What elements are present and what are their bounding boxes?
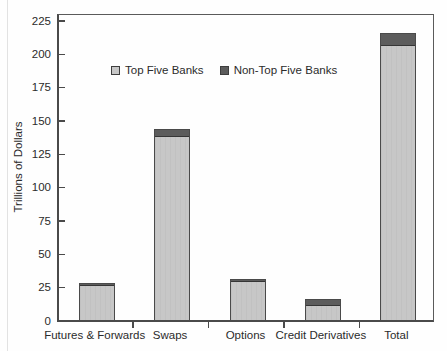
x-axis-label: Total [384, 329, 408, 341]
y-axis-tick-label: 75 [13, 214, 51, 228]
y-axis-tick-label: 50 [13, 247, 51, 261]
y-axis-tick [59, 254, 65, 256]
y-axis-tick [59, 120, 65, 122]
legend-swatch-non-top-five-icon [220, 66, 229, 75]
x-axis-tick [283, 322, 285, 328]
bar-credit-derivatives [305, 299, 341, 320]
y-axis-tick [59, 20, 65, 22]
legend-swatch-top-five-icon [111, 66, 120, 75]
y-axis-tick-label: 100 [13, 180, 51, 194]
x-axis-label: Options [226, 329, 266, 341]
y-axis-tick-label: 25 [13, 280, 51, 294]
bar-options [230, 279, 266, 320]
y-axis-tick [59, 220, 65, 222]
x-axis-tick [132, 322, 134, 328]
bar-segment-top-five [231, 282, 265, 320]
bar-segment-top-five [381, 46, 415, 320]
legend-item-top-five: Top Five Banks [111, 64, 204, 76]
bar-segment-top-five [306, 306, 340, 320]
y-axis-tick-label: 150 [13, 114, 51, 128]
bar-segment-non-top-five [155, 130, 189, 137]
bar-segment-top-five [155, 137, 189, 320]
bar-segment-top-five [80, 286, 114, 320]
page-edge-line [7, 0, 8, 351]
y-axis-tick-label: 200 [13, 47, 51, 61]
chart-figure: Trillions of Dollars Top Five Banks Non-… [0, 0, 447, 351]
y-axis-tick [59, 287, 65, 289]
y-axis-tick [59, 154, 65, 156]
y-axis-tick [59, 87, 65, 89]
y-axis-tick-label: 0 [13, 314, 51, 328]
y-axis-tick-label: 225 [13, 14, 51, 28]
bar-segment-non-top-five [381, 34, 415, 46]
y-axis-tick-label: 125 [13, 147, 51, 161]
bar-swaps [154, 129, 190, 320]
y-axis-tick [59, 187, 65, 189]
x-axis-label: Swaps [153, 329, 188, 341]
bar-futures-forwards [79, 283, 115, 320]
y-axis-tick-label: 175 [13, 80, 51, 94]
x-axis-label: Credit Derivatives [276, 329, 367, 341]
y-axis-tick [59, 320, 65, 322]
bar-total [380, 33, 416, 320]
x-axis-label: Futures & Forwards [44, 329, 145, 341]
plot-area [57, 14, 434, 322]
legend-label-non-top-five: Non-Top Five Banks [234, 64, 338, 76]
legend: Top Five Banks Non-Top Five Banks [111, 64, 337, 76]
x-axis-tick [359, 322, 361, 328]
legend-label-top-five: Top Five Banks [125, 64, 204, 76]
y-axis-tick [59, 54, 65, 56]
x-axis-tick [208, 322, 210, 328]
legend-item-non-top-five: Non-Top Five Banks [220, 64, 338, 76]
